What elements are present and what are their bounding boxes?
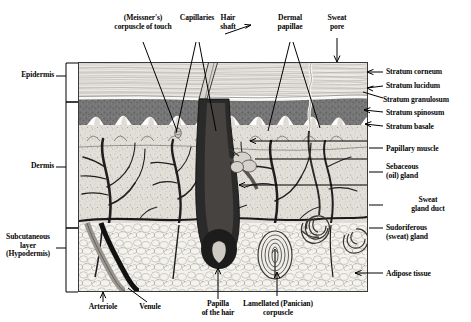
label-papillary-muscle: Papillary muscle [386, 145, 471, 154]
label-sweat-pore: Sweat pore [312, 14, 362, 31]
label-stratum-corneum: Stratum corneum [386, 68, 471, 77]
label-hair-shaft: Hair shaft [208, 14, 248, 31]
label-venule: Venule [128, 303, 172, 312]
skin-cross-section-figure: Epidermis Dermis Subcutaneous layer (Hyp… [0, 0, 471, 322]
skin-diagram-artwork [78, 62, 368, 292]
bracket-hypodermis [66, 228, 78, 292]
label-adipose-tissue: Adipose tissue [386, 270, 471, 279]
label-stratum-granulosum: Stratum granulosum [383, 96, 471, 105]
label-stratum-spinosum: Stratum spinosum [386, 109, 471, 118]
label-sweat-gland-duct: Sweat gland duct [386, 196, 470, 213]
label-arteriole: Arteriole [76, 303, 130, 312]
label-stratum-basale: Stratum basale [386, 123, 471, 132]
label-subcutaneous-layer: Subcutaneous layer (Hypodermis) [0, 233, 56, 259]
label-sebaceous-gland: Sebaceous (oil) gland [386, 163, 470, 180]
label-lamellated-corpuscle: Lamellated (Panician) corpuscle [232, 300, 324, 317]
bracket-epidermis [66, 63, 78, 102]
leader-stratum-lucidum [367, 86, 383, 88]
label-epidermis: Epidermis [0, 71, 54, 80]
label-sudoriferous-gland: Sudoriferous (sweat) gland [386, 224, 471, 241]
label-stratum-lucidum: Stratum lucidum [386, 82, 471, 91]
label-dermis: Dermis [0, 162, 54, 171]
skin-illustration [79, 63, 367, 291]
bracket-dermis [66, 102, 78, 228]
